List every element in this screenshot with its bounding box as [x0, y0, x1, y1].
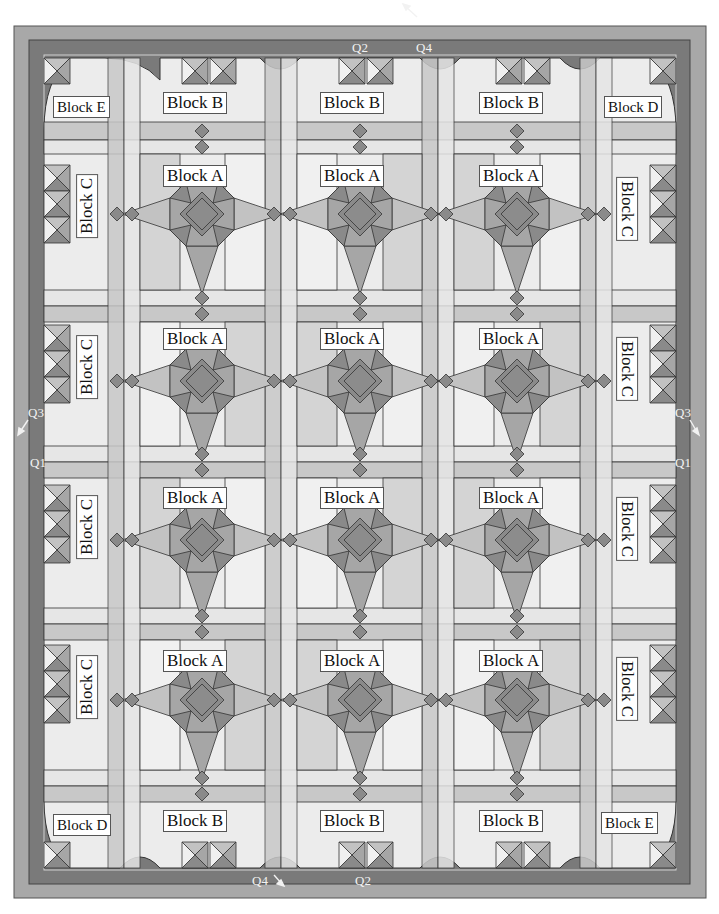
marker-q3-left: Q3	[28, 406, 44, 420]
marker-q1-right: Q1	[675, 456, 691, 470]
label-block-b-bottom-1: Block B	[163, 810, 227, 832]
label-block-e-top-left: Block E	[53, 96, 110, 118]
label-block-a-r2c2: Block A	[320, 328, 384, 350]
quilt-diagram	[0, 0, 719, 914]
marker-q4-top: Q4	[416, 41, 432, 55]
label-block-c-left-4: Block C	[76, 655, 98, 719]
label-block-c-right-1: Block C	[616, 177, 638, 241]
marker-q2-bottom: Q2	[355, 874, 371, 888]
label-block-d-bottom-left: Block D	[53, 814, 111, 836]
label-block-c-right-2: Block C	[616, 337, 638, 401]
label-block-a-r2c3: Block A	[479, 328, 543, 350]
marker-q2-top: Q2	[352, 41, 368, 55]
marker-q1-left: Q1	[30, 456, 46, 470]
label-block-a-r3c2: Block A	[320, 487, 384, 509]
label-block-b-top-2: Block B	[320, 92, 384, 114]
label-block-a-r1c2: Block A	[320, 165, 384, 187]
label-block-c-right-3: Block C	[616, 497, 638, 561]
label-block-c-left-2: Block C	[76, 335, 98, 399]
label-block-c-left-1: Block C	[76, 174, 98, 238]
label-block-a-r1c1: Block A	[163, 165, 227, 187]
label-block-b-bottom-3: Block B	[479, 810, 543, 832]
label-block-c-right-4: Block C	[616, 657, 638, 721]
label-block-a-r3c3: Block A	[479, 487, 543, 509]
label-block-e-bottom-right: Block E	[601, 812, 658, 834]
label-block-a-r4c2: Block A	[320, 650, 384, 672]
marker-q3-right: Q3	[675, 406, 691, 420]
label-block-a-r2c1: Block A	[163, 328, 227, 350]
label-block-b-top-1: Block B	[163, 92, 227, 114]
label-block-a-r3c1: Block A	[163, 487, 227, 509]
marker-q4-bottom: Q4	[252, 874, 268, 888]
label-block-b-bottom-2: Block B	[320, 810, 384, 832]
label-block-a-r1c3: Block A	[479, 165, 543, 187]
label-block-c-left-3: Block C	[76, 495, 98, 559]
label-block-b-top-3: Block B	[479, 92, 543, 114]
label-block-a-r4c1: Block A	[163, 650, 227, 672]
label-block-a-r4c3: Block A	[479, 650, 543, 672]
label-block-d-top-right: Block D	[604, 96, 662, 118]
